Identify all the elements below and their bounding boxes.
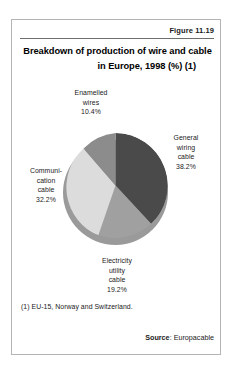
- pie-label-electricity-utility-cable-value: 19.2%: [86, 285, 148, 295]
- pie-svg: [63, 133, 168, 238]
- pie-label-enamelled-wires-value: 10.4%: [60, 107, 122, 117]
- pie-label-communication-cable: Communi- cation cable 32.2%: [18, 166, 74, 204]
- footnote: (1) EU-15, Norway and Switzerland.: [21, 303, 213, 310]
- pie-label-general-wiring-cable-line-2: wiring: [158, 143, 214, 153]
- figure-card: Figure 11.19 Breakdown of production of …: [11, 19, 221, 355]
- pie-label-enamelled-wires: Enamelled wires 10.4%: [60, 88, 122, 117]
- pie-label-electricity-utility-cable: Electricity utility cable 19.2%: [86, 256, 148, 294]
- page-title: Breakdown of production of wire and cabl…: [21, 44, 214, 74]
- pie-label-general-wiring-cable-value: 38.2%: [158, 162, 214, 172]
- title-line-2: in Europe, 1998 (%) (1): [21, 59, 214, 74]
- source-line: Source: Europacable: [21, 333, 214, 342]
- pie-label-electricity-utility-cable-line-1: Electricity: [86, 256, 148, 266]
- pie-graphic: [63, 133, 168, 245]
- title-line-1: Breakdown of production of wire and cabl…: [21, 44, 214, 59]
- pie-label-general-wiring-cable: General wiring cable 38.2%: [158, 133, 214, 171]
- pie-label-electricity-utility-cable-line-2: utility: [86, 266, 148, 276]
- pie-chart: Enamelled wires 10.4% General wiring cab…: [12, 76, 220, 292]
- pie-label-communication-cable-line-3: cable: [18, 185, 74, 195]
- figure-number: Figure 11.19: [20, 26, 214, 35]
- source-label: Source: [145, 333, 169, 342]
- pie-label-general-wiring-cable-line-3: cable: [158, 152, 214, 162]
- pie-label-electricity-utility-cable-line-3: cable: [86, 275, 148, 285]
- source-value: Europacable: [174, 333, 214, 342]
- pie-label-enamelled-wires-line-2: wires: [60, 98, 122, 108]
- pie-label-communication-cable-line-1: Communi-: [18, 166, 74, 176]
- pie-label-communication-cable-line-2: cation: [18, 176, 74, 186]
- pie-label-communication-cable-value: 32.2%: [18, 195, 74, 205]
- header-divider: [20, 38, 214, 39]
- pie-slices: [63, 133, 168, 238]
- pie-label-general-wiring-cable-line-1: General: [158, 133, 214, 143]
- pie-label-enamelled-wires-line-1: Enamelled: [60, 88, 122, 98]
